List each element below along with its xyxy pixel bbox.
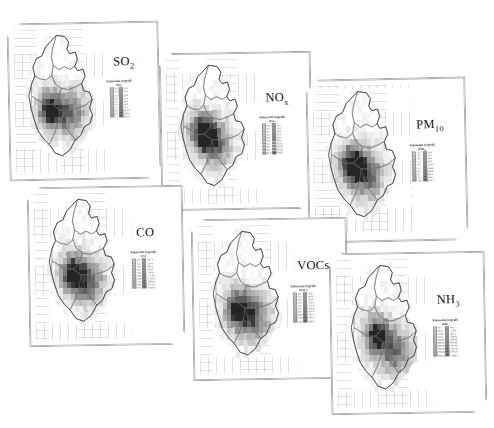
legend-swatch	[304, 319, 308, 322]
legend-title-line2: NOₓ	[259, 120, 284, 125]
legend-column-low: 0.00.20.51.01.82.94.46.59.413.3	[261, 124, 271, 155]
legend-swatch	[446, 353, 450, 356]
figure-canvas: SO2Emission (t/grid)SO₂0.00.10.30.61.01.…	[0, 0, 494, 428]
legend-title-line2: SO₂	[106, 83, 131, 88]
legend-so2: Emission (t/grid)SO₂0.00.10.30.61.01.62.…	[109, 79, 129, 118]
legend-row: 936.28	[433, 353, 445, 356]
legend-co: Emission (t/grid)CO0.01.23.05.810.116.62…	[132, 250, 155, 289]
emission-cell-raster	[42, 196, 124, 326]
legend-title: Emission (t/grid)CO	[131, 250, 156, 259]
emission-cell-raster	[173, 62, 253, 190]
legend-nox: Emission (t/grid)NOₓ0.00.20.51.01.82.94.…	[261, 115, 282, 154]
species-label-text: CO	[136, 225, 154, 239]
map-vector-layer	[198, 225, 296, 374]
legend-title-line2: NH₃	[432, 322, 457, 327]
legend-title: Emission (t/grid)SO₂	[106, 79, 131, 88]
map-panel-nh3: NH3Emission (t/grid)NH₃0.046.3772.66213.…	[329, 251, 488, 416]
legend-row: 7.1	[110, 115, 118, 118]
legend-swatch	[262, 151, 266, 154]
legend-column-high: 18.726.136.350.469.896.5133.3184.0253.83…	[272, 123, 283, 154]
emission-cell-raster	[321, 88, 406, 221]
map-panel-vocs: VOCsEmission (t/grid)VOCs0.00.41.02.03.4…	[191, 217, 350, 382]
legend-title: Emission (t/grid)NOₓ	[259, 115, 284, 124]
legend-title: Emission (t/grid)VOCs	[291, 284, 316, 293]
legend-column-low: 0.00.30.81.52.64.26.59.714.220.5	[412, 151, 422, 182]
species-label-subscript: 10	[435, 124, 444, 133]
legend-swatch-columns: 0.00.30.81.52.64.26.59.714.220.529.341.6…	[412, 151, 433, 182]
emission-cell-raster	[21, 32, 102, 160]
legend-title-line2: PM₁₀	[410, 147, 435, 152]
choropleth-map-pm10	[313, 85, 414, 236]
emission-cell-raster	[206, 228, 288, 359]
legend-column-low: 0.01.23.05.810.116.626.441.263.597.1	[132, 258, 142, 289]
species-label-vocs: VOCs	[297, 258, 330, 274]
species-label-pm10: PM10	[416, 117, 444, 134]
emission-cell-raster	[344, 262, 426, 393]
legend-row: 97.1	[133, 286, 142, 289]
species-label-text: VOCs	[297, 258, 330, 273]
species-label-nox: NOx	[265, 90, 288, 107]
legend-swatch	[433, 354, 437, 357]
legend-value-label: 13.3	[267, 151, 271, 153]
legend-vocs: Emission (t/grid)VOCs0.00.41.02.03.45.58…	[293, 284, 314, 323]
legend-swatch-columns: 0.00.10.30.61.01.62.43.55.07.110.014.119…	[109, 87, 129, 118]
species-label-so2: SO2	[113, 54, 134, 71]
legend-value-label: 7.1	[115, 115, 118, 117]
species-label-subscript: 3	[455, 300, 460, 309]
legend-column-high: 10.014.119.827.638.353.073.2101.0139.119…	[118, 87, 129, 118]
legend-swatch	[110, 115, 114, 118]
legend-row: 191.3	[119, 114, 130, 117]
species-label-nh3: NH3	[437, 292, 460, 309]
legend-column-high: 29.341.658.882.9116.6163.8229.9322.5452.…	[422, 151, 433, 182]
choropleth-map-vocs	[198, 225, 296, 374]
legend-row: 6,155.3	[143, 286, 155, 289]
legend-swatch	[272, 151, 276, 154]
legend-row: 13.3	[262, 151, 271, 154]
legend-value-label: 349.9	[277, 151, 283, 153]
legend-value-label: 191.3	[124, 115, 130, 117]
legend-column-high: 147.8224.4340.2515.3779.81,179.61,783.52…	[142, 258, 155, 289]
legend-swatch-columns: 0.00.20.51.01.82.94.46.59.413.318.726.13…	[261, 123, 282, 154]
legend-pm10: Emission (t/grid)PM₁₀0.00.30.81.52.64.26…	[412, 143, 434, 182]
legend-value-label: 936.28	[438, 354, 445, 356]
choropleth-map-co	[34, 193, 132, 340]
choropleth-map-nh3	[336, 259, 434, 408]
legend-title-line2: CO	[131, 254, 156, 259]
legend-swatch	[143, 286, 147, 289]
legend-swatch-columns: 0.01.23.05.810.116.626.441.263.597.1147.…	[132, 258, 155, 289]
species-label-subscript: 2	[130, 61, 135, 70]
species-label-subscript: x	[284, 98, 289, 107]
choropleth-map-so2	[14, 29, 110, 174]
map-vector-layer	[336, 259, 434, 408]
map-vector-layer	[34, 193, 132, 340]
map-vector-layer	[313, 85, 414, 236]
legend-swatch	[423, 178, 427, 181]
legend-row: 980.0	[304, 319, 315, 322]
legend-swatch	[133, 286, 137, 289]
legend-title-line2: VOCs	[291, 288, 316, 293]
legend-swatch	[413, 179, 417, 182]
species-label-text: NH	[437, 292, 456, 306]
legend-column-low: 0.00.41.02.03.45.58.613.019.328.2	[293, 292, 303, 323]
legend-value-label: 97.1	[138, 286, 142, 288]
legend-value-label: 1,068.0	[451, 354, 458, 356]
legend-value-label: 20.5	[418, 179, 422, 181]
species-label-text: NO	[265, 90, 284, 104]
legend-value-label: 980.0	[309, 320, 315, 322]
map-vector-layer	[14, 29, 110, 174]
species-label-text: SO	[113, 54, 130, 68]
legend-nh3: Emission (t/grid)NH₃0.046.3772.66213.130…	[432, 318, 458, 357]
legend-column-low: 0.046.3772.66213.1305.81366.62494.89591.…	[433, 326, 445, 357]
map-panel-co: COEmission (t/grid)CO0.01.23.05.810.116.…	[27, 185, 186, 348]
legend-row: 349.9	[272, 151, 283, 154]
legend-swatch-columns: 0.046.3772.66213.1305.81366.62494.89591.…	[433, 326, 459, 357]
legend-column-high: 40.858.683.8119.5170.1241.8343.4487.4691…	[303, 292, 314, 323]
legend-value-label: 634.4	[428, 179, 434, 181]
legend-row: 634.4	[423, 178, 434, 181]
legend-value-label: 28.2	[298, 320, 302, 322]
map-panel-so2: SO2Emission (t/grid)SO₂0.00.10.30.61.01.…	[6, 20, 161, 181]
choropleth-map-nox	[166, 59, 261, 204]
legend-swatch	[293, 320, 297, 323]
species-label-text: PM	[416, 117, 435, 131]
map-vector-layer	[166, 59, 261, 204]
